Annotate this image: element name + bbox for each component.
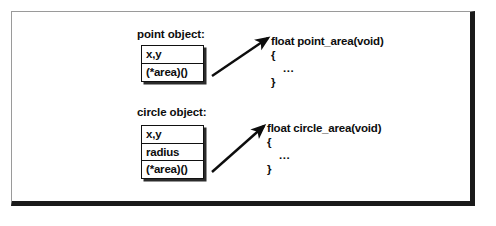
point-area-open-brace: { — [271, 49, 384, 63]
point-field-area-ptr: (*area)() — [142, 63, 203, 80]
point-area-function-block: float point_area(void) { ... } — [271, 35, 384, 89]
circle-field-xy: x,y — [142, 126, 203, 143]
point-area-signature: float point_area(void) — [271, 35, 384, 49]
point-area-close-brace: } — [271, 76, 384, 90]
circle-area-signature: float circle_area(void) — [267, 122, 381, 136]
point-object-box: x,y (*area)() — [141, 45, 204, 82]
circle-field-radius: radius — [142, 143, 203, 160]
circle-area-close-brace: } — [267, 163, 381, 177]
circle-area-function-block: float circle_area(void) { ... } — [267, 122, 381, 176]
circle-object-box: x,y radius (*area)() — [141, 125, 204, 179]
point-field-xy: x,y — [142, 46, 203, 63]
circle-object-caption: circle object: — [137, 106, 207, 118]
figure-canvas: point object: x,y (*area)() circle objec… — [0, 0, 496, 226]
point-object-caption: point object: — [137, 28, 205, 40]
circle-area-open-brace: { — [267, 136, 381, 150]
circle-field-area-ptr: (*area)() — [142, 160, 203, 177]
point-area-body-ellipsis: ... — [271, 62, 384, 76]
figure-frame: point object: x,y (*area)() circle objec… — [11, 11, 475, 206]
circle-area-body-ellipsis: ... — [267, 149, 381, 163]
